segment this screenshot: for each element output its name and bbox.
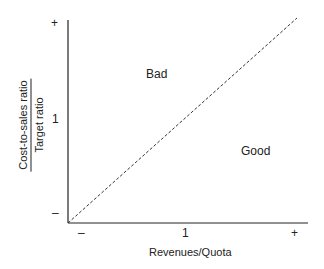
y-label-denominator: Target ratio: [33, 97, 45, 152]
x-axis-label: Revenues/Quota: [149, 246, 232, 258]
diagonal-line: [68, 18, 297, 223]
y-axis-label: Cost-to-sales ratio Target ratio: [6, 70, 56, 180]
y-label-numerator: Cost-to-sales ratio: [16, 78, 32, 171]
y-tick-minus: –: [52, 206, 59, 220]
x-tick-minus: –: [78, 226, 85, 240]
region-label-good: Good: [241, 144, 270, 158]
y-tick-plus: +: [51, 16, 58, 30]
region-label-bad: Bad: [146, 67, 167, 81]
x-tick-plus: +: [291, 226, 298, 240]
x-tick-one: 1: [182, 226, 189, 240]
